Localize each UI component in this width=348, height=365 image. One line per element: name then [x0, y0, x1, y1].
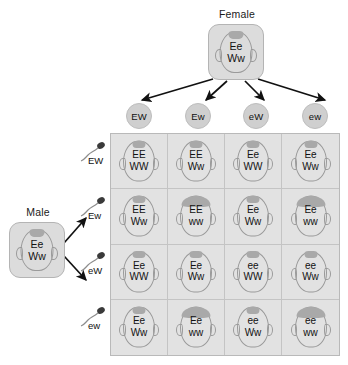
offspring-genotype-line2: WW: [130, 161, 149, 173]
offspring-genotype: eeWw: [245, 316, 262, 340]
offspring-genotype-line1: Ee: [244, 149, 263, 161]
ear-left-icon: [233, 213, 240, 225]
ear-right-icon: [324, 324, 331, 336]
punnett-square-diagram: Female Ee Ww Male Ee Ww EW: [0, 0, 348, 365]
punnett-cell: EEww: [168, 189, 225, 244]
sperm-gamete-2-label: Ew: [88, 210, 101, 221]
offspring-genotype: eeWw: [302, 260, 319, 284]
offspring-genotype-line1: Ee: [131, 316, 148, 328]
ear-left-icon: [291, 324, 298, 336]
hair-icon: [133, 196, 146, 203]
hair-icon: [190, 251, 203, 258]
ear-left-icon: [119, 268, 126, 280]
ear-right-icon: [210, 213, 217, 225]
male-genotype: Ee Ww: [28, 238, 46, 263]
offspring-face: Eeww: [283, 189, 339, 243]
punnett-cell: eeWw: [225, 300, 282, 355]
offspring-genotype-line1: ee: [244, 260, 263, 272]
offspring-face: EEWw: [168, 134, 224, 188]
offspring-genotype-line1: Ee: [188, 260, 205, 272]
male-title: Male: [8, 206, 68, 218]
hair-icon: [247, 251, 260, 258]
ear-left-icon: [119, 158, 126, 170]
offspring-face: eeww: [283, 300, 339, 354]
punnett-cell: EeWw: [225, 189, 282, 244]
offspring-genotype: EeWw: [188, 260, 205, 284]
offspring-genotype-line1: ee: [303, 316, 317, 328]
sperm-gamete-1-label: EW: [88, 155, 103, 166]
ear-right-icon: [324, 158, 331, 170]
offspring-face: EeWW: [225, 134, 281, 188]
male-parent-box: Ee Ww: [9, 222, 65, 278]
ear-left-icon: [119, 324, 126, 336]
ear-left-icon: [176, 324, 183, 336]
egg-gamete-label: Ew: [191, 111, 204, 122]
ear-left-icon: [176, 158, 183, 170]
ear-right-icon: [210, 268, 217, 280]
offspring-genotype-line2: Ww: [188, 161, 205, 173]
offspring-genotype-line2: ww: [189, 327, 203, 339]
sperm-gamete-4-label: ew: [88, 320, 100, 331]
egg-gamete-2: Ew: [185, 103, 211, 129]
ear-right-icon: [210, 158, 217, 170]
female-genotype: Ee Ww: [227, 40, 245, 65]
offspring-genotype-line2: ww: [303, 327, 317, 339]
offspring-genotype-line2: Ww: [302, 161, 319, 173]
offspring-genotype: EEWW: [130, 149, 149, 173]
ear-right-icon: [324, 268, 331, 280]
offspring-genotype-line2: WW: [244, 272, 263, 284]
offspring-face: eeWw: [283, 245, 339, 299]
offspring-face: EeWW: [111, 245, 167, 299]
punnett-cell: Eeww: [282, 189, 339, 244]
female-parent-box: Ee Ww: [208, 24, 264, 80]
ear-left-icon: [233, 158, 240, 170]
offspring-genotype: EeWw: [245, 205, 262, 229]
ear-right-icon: [51, 247, 58, 260]
ear-right-icon: [153, 213, 160, 225]
offspring-face: eeWW: [225, 245, 281, 299]
offspring-genotype: Eeww: [303, 205, 317, 229]
offspring-face: EEWw: [111, 189, 167, 243]
male-face: Ee Ww: [9, 222, 65, 278]
offspring-genotype: EEWw: [131, 205, 148, 229]
offspring-genotype-line2: Ww: [188, 272, 205, 284]
offspring-genotype: EEWw: [188, 149, 205, 173]
offspring-genotype-line2: WW: [244, 161, 263, 173]
ear-left-icon: [233, 324, 240, 336]
offspring-genotype-line2: ww: [189, 216, 203, 228]
ear-left-icon: [176, 213, 183, 225]
offspring-genotype-line1: ee: [245, 316, 262, 328]
punnett-grid: EEWWEEWwEeWWEeWwEEWwEEwwEeWwEewwEeWWEeWw…: [110, 133, 340, 356]
offspring-genotype-line1: Ee: [130, 260, 149, 272]
offspring-genotype-line2: Ww: [245, 216, 262, 228]
ear-left-icon: [291, 268, 298, 280]
offspring-genotype-line1: Ee: [303, 205, 317, 217]
egg-gamete-3: eW: [243, 103, 269, 129]
punnett-cell: EeWw: [168, 245, 225, 300]
punnett-cell: EeWW: [225, 134, 282, 189]
hair-icon: [247, 196, 260, 203]
sperm-gamete-3-label: eW: [88, 265, 102, 276]
male-genotype-line2: Ww: [28, 250, 46, 262]
male-genotype-line1: Ee: [28, 238, 46, 250]
hair-icon: [304, 141, 317, 148]
offspring-face: Eeww: [168, 300, 224, 354]
hair-icon: [190, 141, 203, 148]
ear-left-icon: [16, 247, 23, 260]
offspring-genotype-line1: EE: [130, 149, 149, 161]
offspring-face: EeWw: [111, 300, 167, 354]
hair-icon: [304, 251, 317, 258]
ear-left-icon: [291, 213, 298, 225]
offspring-genotype-line1: Ee: [302, 149, 319, 161]
hair-icon: [133, 307, 146, 314]
female-face: Ee Ww: [208, 24, 264, 80]
punnett-cell: EEWw: [168, 134, 225, 189]
offspring-genotype-line2: WW: [130, 272, 149, 284]
punnett-cell: eeWw: [282, 245, 339, 300]
offspring-genotype: EEww: [189, 205, 203, 229]
offspring-face: eeWw: [225, 300, 281, 354]
offspring-genotype: Eeww: [189, 316, 203, 340]
ear-right-icon: [153, 324, 160, 336]
offspring-genotype-line2: Ww: [302, 272, 319, 284]
ear-right-icon: [210, 324, 217, 336]
